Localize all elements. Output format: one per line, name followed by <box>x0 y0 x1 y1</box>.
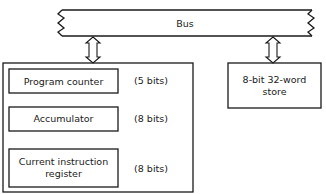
store-label-line1: 8-bit 32-word <box>228 74 321 85</box>
accumulator-label: Accumulator <box>9 113 118 124</box>
bus-break-right <box>308 10 314 36</box>
bus-processor-arrow-icon <box>86 37 100 63</box>
program-counter-label: Program counter <box>9 76 118 87</box>
current-instruction-register-label-line2: register <box>9 168 118 179</box>
program-counter-width: (5 bits) <box>126 75 176 86</box>
current-instruction-register-label-line1: Current instruction <box>9 156 118 167</box>
bus-label: Bus <box>150 18 220 29</box>
bus-break-left <box>58 10 64 36</box>
bus-store-arrow-icon <box>266 37 280 63</box>
current-instruction-register-width: (8 bits) <box>126 163 176 174</box>
accumulator-width: (8 bits) <box>126 113 176 124</box>
store-label-line2: store <box>228 86 321 97</box>
